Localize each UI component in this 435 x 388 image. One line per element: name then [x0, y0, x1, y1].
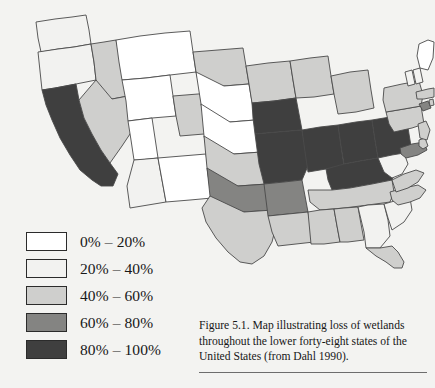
legend-item-60-80: 60% – 80% [26, 309, 161, 336]
state-ut [128, 118, 158, 160]
legend-swatch-0-20 [26, 232, 67, 251]
state-ia [252, 98, 302, 134]
state-ar [264, 180, 308, 216]
legend-item-0-20: 0% – 20% [26, 228, 161, 255]
legend-swatch-40-60 [26, 286, 67, 305]
legend-swatch-80-100 [26, 340, 67, 359]
state-mt [116, 31, 196, 80]
figure-caption: Figure 5.1. Map illustrating loss of wet… [199, 318, 427, 365]
state-me [417, 40, 434, 70]
state-wi [290, 56, 334, 98]
legend-item-40-60: 40% – 60% [26, 282, 161, 309]
legend-item-80-100: 80% – 100% [26, 336, 161, 363]
legend-swatch-60-80 [26, 313, 67, 332]
caption-divider [199, 372, 427, 373]
state-nj [418, 121, 430, 140]
state-in [338, 120, 378, 164]
state-wy [122, 75, 176, 121]
state-il [302, 125, 344, 172]
state-fl [366, 246, 404, 268]
state-or [38, 44, 96, 90]
legend-label-40-60: 40% – 60% [80, 287, 153, 305]
state-mn [246, 61, 296, 103]
legend-label-60-80: 60% – 80% [80, 314, 153, 332]
state-nm [158, 154, 212, 202]
legend-item-20-40: 20% – 40% [26, 255, 161, 282]
state-mo [255, 130, 308, 184]
figure-container: 0% – 20% 20% – 40% 40% – 60% 60% – 80% 8… [0, 0, 435, 388]
state-la [268, 212, 314, 246]
legend-label-80-100: 80% – 100% [80, 341, 161, 359]
map-legend: 0% – 20% 20% – 40% 40% – 60% 60% – 80% 8… [26, 228, 161, 363]
legend-label-0-20: 0% – 20% [80, 233, 145, 251]
legend-swatch-20-40 [26, 259, 67, 278]
legend-label-20-40: 20% – 40% [80, 260, 153, 278]
state-mi [331, 70, 374, 114]
state-ri [429, 99, 434, 106]
state-ga [358, 204, 390, 248]
